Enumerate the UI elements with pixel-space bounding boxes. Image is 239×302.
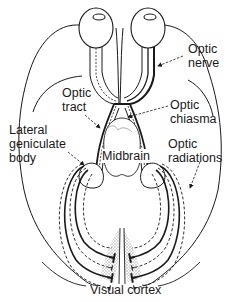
leader-optic-radiations: [190, 162, 200, 188]
label-visual-cortex: Visual cortex: [90, 283, 161, 297]
label-midbrain: Midbrain: [102, 149, 150, 163]
visual-pathway-diagram: Optic nerve Optic tract Optic chiasma La…: [0, 0, 239, 302]
label-optic-radiations: Optic radiations: [168, 137, 222, 165]
label-optic-nerve: Optic nerve: [188, 42, 219, 70]
label-optic-chiasma: Optic chiasma: [170, 98, 217, 126]
midbrain-shape: [104, 118, 141, 176]
label-lateral-geniculate-body: Lateral geniculate body: [9, 123, 66, 165]
label-optic-tract: Optic tract: [62, 86, 91, 114]
leader-optic-nerve: [158, 56, 183, 66]
leader-optic-tract: [85, 115, 100, 128]
leader-lateral-geniculate: [68, 152, 84, 165]
